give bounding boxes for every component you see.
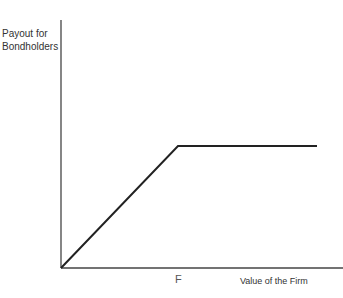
payout-chart bbox=[0, 0, 343, 298]
payout-line bbox=[61, 146, 317, 268]
x-axis-label: Value of the Firm bbox=[240, 276, 308, 286]
f-tick-label: F bbox=[175, 273, 182, 285]
